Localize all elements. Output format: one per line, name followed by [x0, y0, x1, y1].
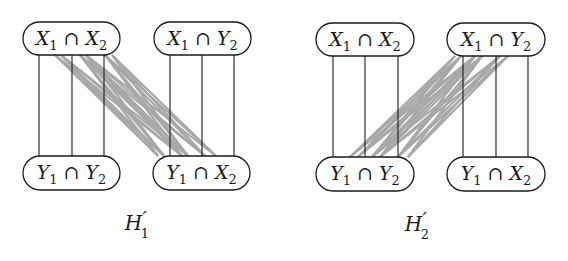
gray-edge — [380, 56, 482, 157]
node-tl: X1 ∩ X2 — [23, 22, 120, 55]
node-bl: Y1 ∩ Y2 — [316, 157, 414, 191]
bipartite-graph-figure: X1 ∩ X2X1 ∩ Y2Y1 ∩ Y2Y1 ∩ X2H′1 X1 ∩ X2X… — [0, 0, 568, 261]
node-tl: X1 ∩ X2 — [316, 23, 414, 56]
node-br: Y1 ∩ X2 — [153, 156, 250, 190]
node-tr: X1 ∩ Y2 — [447, 23, 545, 56]
gray-edge — [61, 55, 164, 156]
graph-caption: H′1 — [124, 207, 149, 241]
gray-edges — [55, 55, 216, 156]
diagram-h2: X1 ∩ X2X1 ∩ Y2Y1 ∩ Y2Y1 ∩ X2H′2 — [316, 23, 545, 242]
gray-edges — [350, 56, 508, 157]
graph-caption: H′2 — [404, 208, 429, 242]
gray-edge — [86, 55, 188, 156]
diagram-h1: X1 ∩ X2X1 ∩ Y2Y1 ∩ Y2Y1 ∩ X2H′1 — [23, 22, 251, 241]
node-bl: Y1 ∩ Y2 — [23, 156, 120, 190]
node-br: Y1 ∩ X2 — [447, 157, 545, 191]
node-tr: X1 ∩ Y2 — [154, 22, 251, 55]
